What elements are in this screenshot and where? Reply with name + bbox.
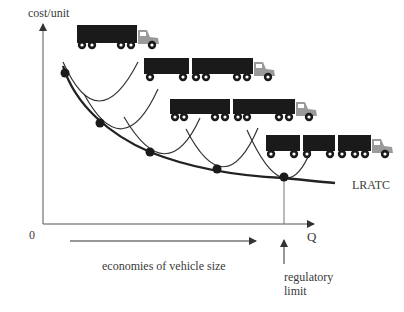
origin-label: 0 [29,228,35,242]
truck-triple-trailer [266,135,393,158]
economies-label: economies of vehicle size [102,259,226,273]
tangent-points [61,69,289,182]
truck-single-trailer [77,25,159,49]
lratc-label: LRATC [352,178,390,192]
x-axis-label: Q [307,230,316,244]
truck-double-trailer-long [170,99,317,121]
y-axis-label: cost/unit [28,6,69,20]
truck-double-trailer [144,58,275,81]
regulatory-limit-label-line2: limit [284,284,307,298]
regulatory-limit-label-line1: regulatory [284,270,333,284]
